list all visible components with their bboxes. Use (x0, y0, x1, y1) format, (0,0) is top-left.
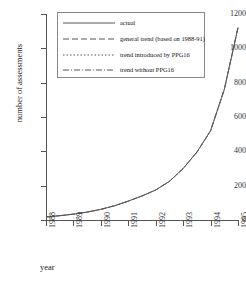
y-tick-label: 1200 (208, 10, 246, 18)
x-tick (211, 220, 212, 226)
y-tick-label: 200 (208, 182, 246, 190)
legend-item-general-trend: general trend (based on 1988-91) (63, 34, 203, 44)
y-tick-label: 800 (208, 79, 246, 87)
legend-label: trend without PPG16 (120, 65, 174, 75)
y-tick (41, 14, 47, 15)
x-axis-title: year (40, 262, 55, 272)
legend-line-sample-dotted (63, 54, 115, 56)
y-tick-label: 1000 (208, 44, 246, 52)
y-axis-title: number of assessments (14, 18, 24, 148)
x-tick-label: 1991 (131, 212, 139, 228)
chart-legend: actual general trend (based on 1988-91) … (57, 12, 205, 78)
y-tick (41, 186, 47, 187)
legend-line-sample-solid (63, 22, 115, 24)
y-tick-label: 400 (208, 147, 246, 155)
x-tick (156, 220, 157, 226)
legend-label: actual (120, 18, 135, 28)
y-tick (41, 83, 47, 84)
x-tick-label: 1994 (214, 212, 222, 228)
legend-item-trend-without: trend without PPG16 (63, 65, 203, 75)
x-tick (238, 220, 239, 226)
x-tick-label: 1993 (186, 212, 194, 228)
x-tick (183, 220, 184, 226)
legend-label: general trend (based on 1988-91) (120, 34, 205, 44)
legend-item-actual: actual (63, 18, 203, 28)
y-tick (41, 151, 47, 152)
x-tick (46, 220, 47, 226)
chart-container: 020040060080010001200 198819891990199119… (0, 0, 246, 283)
y-tick-label: 600 (208, 113, 246, 121)
x-tick-label: 1990 (104, 212, 112, 228)
y-tick (41, 48, 47, 49)
y-tick (41, 117, 47, 118)
x-tick-label: 1992 (159, 212, 167, 228)
x-tick-label: 1989 (76, 212, 84, 228)
x-tick-label: 1988 (49, 212, 57, 228)
x-tick-label: 1995 (241, 212, 246, 228)
x-tick (101, 220, 102, 226)
legend-line-sample-dashdot (63, 69, 115, 71)
legend-item-trend-introduced: trend introduced by PPG16 (63, 50, 203, 60)
legend-label: trend introduced by PPG16 (120, 50, 190, 60)
legend-line-sample-dashed (63, 38, 115, 40)
